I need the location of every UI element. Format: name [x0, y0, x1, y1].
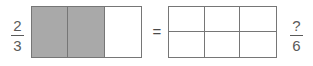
right-model-cell-5 — [205, 32, 241, 57]
right-model-cell-2 — [205, 7, 241, 32]
left-area-model — [31, 6, 142, 58]
right-fraction-numerator-unknown: ? — [291, 18, 301, 33]
right-model-cell-6 — [240, 32, 276, 57]
left-fraction-numerator: 2 — [12, 18, 22, 33]
right-fraction-denominator: 6 — [291, 38, 301, 53]
left-model-cell-2 — [68, 7, 104, 57]
left-fraction-denominator: 3 — [12, 38, 22, 53]
left-fraction: 2 3 — [8, 17, 27, 53]
right-model-cell-4 — [169, 32, 205, 57]
equivalent-fraction-equation: 2 3 = ? 6 — [0, 0, 313, 66]
right-model-cell-3 — [240, 7, 276, 32]
right-fraction: ? 6 — [287, 17, 306, 53]
equals-sign: = — [150, 24, 164, 40]
right-fraction-bar — [290, 35, 303, 36]
left-fraction-bar — [11, 35, 24, 36]
right-area-model — [168, 6, 277, 58]
left-model-cell-1 — [32, 7, 68, 57]
right-model-cell-1 — [169, 7, 205, 32]
left-model-cell-3 — [105, 7, 141, 57]
